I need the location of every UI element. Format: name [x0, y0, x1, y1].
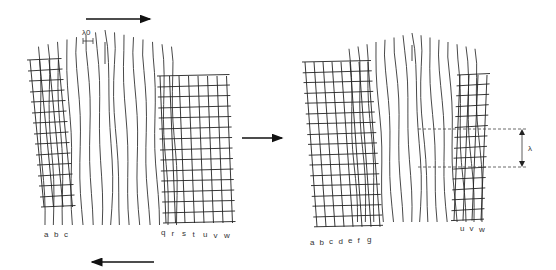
- lambda0-marker: λ0: [82, 28, 93, 44]
- grid-column-label: b: [320, 238, 325, 247]
- grid-column-label: q: [161, 228, 165, 237]
- right-panel-grid-ag: [302, 61, 383, 227]
- left-panel: λ0 abc qrstuvw: [27, 19, 236, 262]
- right-panel-right-labels: uvw: [460, 224, 485, 234]
- grid-column-label: u: [203, 230, 207, 239]
- grid-column-label: f: [358, 236, 361, 245]
- grid-column-label: a: [310, 238, 315, 247]
- right-panel-left-labels: abcdefg: [310, 235, 371, 247]
- shear-zone-diagram: λ0 abc qrstuvw λ abcdefg uvw: [0, 0, 556, 270]
- right-grid-labels: qrstuvw: [161, 228, 230, 240]
- grid-column-label: v: [470, 224, 474, 233]
- grid-column-label: d: [339, 237, 343, 246]
- grid-column-label: c: [64, 230, 68, 239]
- grid-column-label: s: [182, 229, 186, 238]
- left-grid-labels: abc: [44, 230, 68, 239]
- right-panel: λ abcdefg uvw: [302, 33, 532, 247]
- grid-column-label: e: [348, 236, 353, 245]
- grid-column-label: t: [193, 230, 196, 239]
- grid-column-label: v: [214, 231, 218, 240]
- grid-column-label: r: [172, 229, 175, 238]
- grid-column-label: g: [367, 235, 371, 244]
- grid-column-label: w: [478, 225, 485, 234]
- right-grid-qw: [157, 75, 236, 224]
- left-grid-abc: [27, 59, 76, 208]
- lambda-label: λ: [528, 144, 532, 153]
- grid-column-label: a: [44, 230, 49, 239]
- right-panel-grid-uw: [451, 74, 490, 221]
- lambda0-label: λ0: [82, 28, 91, 37]
- grid-column-label: c: [329, 237, 333, 246]
- grid-column-label: u: [460, 224, 464, 233]
- grid-column-label: w: [223, 231, 230, 240]
- grid-column-label: b: [54, 230, 59, 239]
